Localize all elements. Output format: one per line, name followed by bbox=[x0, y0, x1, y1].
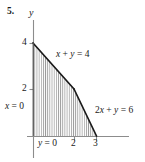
y-tick-label-2: 2 bbox=[22, 84, 27, 94]
x-tick-label-2: 2 bbox=[71, 139, 76, 149]
y-axis-label: y bbox=[29, 8, 33, 18]
constraint-label-x-equals-0: x = 0 bbox=[5, 102, 24, 112]
linear-programming-figure: 5. y 4 2 2 3 x = 0 y = 0 x + y = 4 2x + … bbox=[0, 0, 145, 162]
x-tick-label-3: 3 bbox=[93, 139, 98, 149]
problem-number: 5. bbox=[7, 7, 14, 17]
constraint-label-x-plus-y-equals-4: x + y = 4 bbox=[56, 50, 89, 60]
constraint-label-2x-plus-y-equals-6: 2x + y = 6 bbox=[95, 106, 133, 116]
y-tick-label-4: 4 bbox=[22, 38, 27, 48]
constraint-label-y-equals-0: y = 0 bbox=[38, 139, 57, 149]
